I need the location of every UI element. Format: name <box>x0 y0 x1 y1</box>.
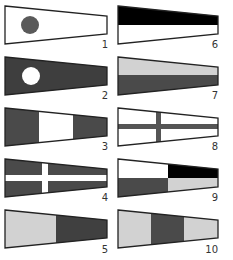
pennant-9-number: 9 <box>198 193 218 203</box>
pennant-2-number: 2 <box>88 91 108 101</box>
circle-icon <box>21 16 39 34</box>
pennant-6-number: 6 <box>198 40 218 50</box>
pennant-3-number: 3 <box>88 142 108 152</box>
pennant-10-number: 10 <box>198 245 218 255</box>
pennant-5 <box>5 210 109 250</box>
pennant-7-number: 7 <box>198 91 218 101</box>
pennant-1-number: 1 <box>88 40 108 50</box>
pennant-5-graphic <box>5 210 109 250</box>
circle-icon <box>22 67 40 85</box>
pennant-4-number: 4 <box>88 193 108 203</box>
pennant-8-number: 8 <box>198 142 218 152</box>
pennant-5-number: 5 <box>88 245 108 255</box>
